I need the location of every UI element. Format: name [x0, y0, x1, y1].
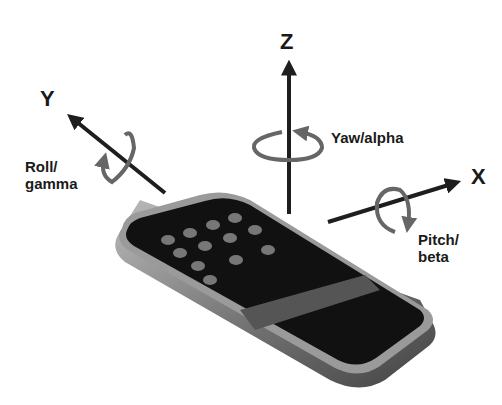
roll-label-line1: Roll/ — [25, 159, 78, 176]
y-axis-label: Y — [40, 87, 55, 111]
yaw-alpha-label: Yaw/alpha — [331, 130, 404, 147]
orientation-diagram: Z Y X Yaw/alpha Roll/ gamma Pitch/ beta — [0, 0, 502, 405]
z-axis-label: Z — [280, 30, 293, 54]
roll-gamma-label: Roll/ gamma — [25, 159, 78, 192]
pitch-label-line1: Pitch/ — [418, 232, 459, 249]
pitch-rotation-icon — [377, 189, 409, 232]
smartphone-image — [115, 192, 435, 387]
y-axis-arrow — [72, 118, 165, 193]
pitch-beta-label: Pitch/ beta — [418, 232, 459, 265]
diagram-graphics — [0, 0, 502, 405]
roll-label-line2: gamma — [25, 176, 78, 193]
pitch-label-line2: beta — [418, 249, 459, 266]
x-axis-label: X — [471, 165, 486, 189]
